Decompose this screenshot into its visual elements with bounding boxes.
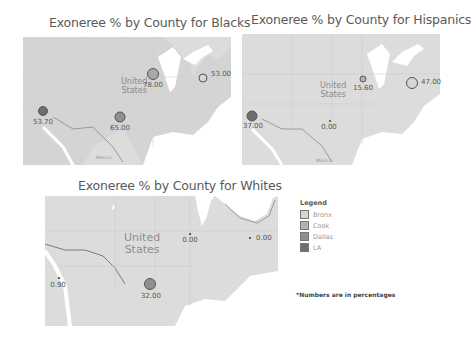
value-cook-whites: 0.00 — [182, 236, 198, 244]
bubble-cook-whites[interactable] — [189, 233, 191, 235]
value-la-hispanics: 37.00 — [243, 122, 263, 130]
swatch-cook — [300, 221, 309, 230]
bubble-cook-hispanics[interactable] — [360, 76, 367, 83]
map-whites[interactable]: United States — [45, 196, 278, 326]
value-la-whites: 0.90 — [50, 281, 66, 289]
legend-item-dallas[interactable]: Dallas — [300, 231, 333, 242]
value-la-blacks: 53.70 — [33, 118, 53, 126]
bubble-la-hispanics[interactable] — [247, 111, 258, 122]
legend-item-la[interactable]: LA — [300, 242, 333, 253]
value-bronx-whites: 0.00 — [256, 234, 272, 242]
value-cook-blacks: 78.00 — [143, 81, 163, 89]
value-bronx-hispanics: 47.00 — [421, 78, 441, 86]
swatch-bronx — [300, 210, 309, 219]
legend-item-cook[interactable]: Cook — [300, 220, 333, 231]
bubble-la-blacks[interactable] — [38, 106, 48, 116]
map-hispanics[interactable]: United States Mexico — [242, 34, 440, 165]
title-hispanics: Exoneree % by County for Hispanics — [251, 12, 471, 27]
map-blacks[interactable]: United States Mexico — [23, 37, 231, 165]
legend-label: Dallas — [313, 233, 333, 241]
title-whites: Exoneree % by County for Whites — [78, 178, 282, 193]
bubble-bronx-hispanics[interactable] — [406, 77, 418, 89]
legend-title: Legend — [300, 199, 333, 207]
label-united-states: United States — [124, 232, 160, 256]
bubble-bronx-whites[interactable] — [249, 237, 251, 239]
swatch-la — [300, 243, 309, 252]
map-background — [242, 34, 440, 165]
bubble-cook-blacks[interactable] — [147, 68, 159, 80]
legend-item-bronx[interactable]: Bronx — [300, 209, 333, 220]
map-background — [23, 37, 231, 165]
bubble-bronx-blacks[interactable] — [199, 74, 208, 83]
value-bronx-blacks: 53.00 — [211, 70, 231, 78]
footnote: *Numbers are in percentages — [296, 291, 395, 298]
bubble-dallas-whites[interactable] — [144, 278, 156, 290]
value-dallas-blacks: 65.00 — [110, 124, 130, 132]
label-mexico: Mexico — [316, 158, 332, 163]
title-blacks: Exoneree % by County for Blacks — [49, 15, 250, 30]
bubble-dallas-blacks[interactable] — [115, 112, 126, 123]
value-dallas-whites: 32.00 — [141, 292, 161, 300]
legend-label: Bronx — [313, 211, 332, 219]
bubble-dallas-hispanics[interactable] — [329, 120, 331, 122]
label-united-states: United States — [320, 81, 346, 99]
value-dallas-hispanics: 0.00 — [321, 123, 337, 131]
value-cook-hispanics: 15.60 — [353, 84, 373, 92]
legend: Legend Bronx Cook Dallas LA — [300, 199, 333, 253]
label-mexico: Mexico — [96, 155, 112, 160]
bubble-la-whites[interactable] — [58, 277, 60, 279]
map-background — [45, 196, 278, 326]
legend-label: LA — [313, 244, 321, 252]
swatch-dallas — [300, 232, 309, 241]
legend-label: Cook — [313, 222, 329, 230]
